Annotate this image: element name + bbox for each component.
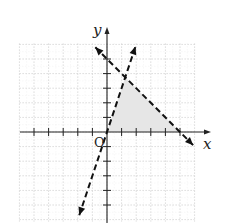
arrowhead-icon: [130, 47, 137, 56]
origin-label: O: [94, 135, 105, 150]
arrowhead-icon: [78, 207, 85, 216]
coordinate-plane: x y O: [0, 0, 225, 223]
x-axis-arrow-icon: [204, 130, 211, 135]
y-axis-label: y: [92, 21, 102, 39]
x-axis-label: x: [203, 135, 212, 153]
y-axis-arrow-icon: [105, 27, 110, 34]
